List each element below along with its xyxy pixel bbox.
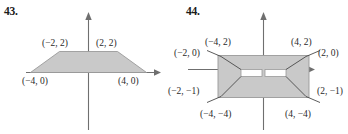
rectangle-region-44 <box>218 56 309 98</box>
slot-left-44 <box>241 70 262 77</box>
vertex-label-top-left-43: (−2, 2) <box>42 39 68 49</box>
vertex-label-bottom-right-43: (4, 0) <box>118 77 139 87</box>
vertex-label-bottom-left-44: (−4, −4) <box>200 110 231 120</box>
leader-stub-bottom-left-44 <box>207 97 221 103</box>
trapezoid-region-43 <box>31 52 147 73</box>
figure-43-graphic <box>0 0 174 134</box>
vertex-label-top-right-43: (2, 2) <box>96 39 117 49</box>
slot-right-44 <box>265 70 286 77</box>
leader-stub-bottom-right-44 <box>306 97 320 103</box>
figure-panel-43: 43. (−2, 2) (2, 2) (−4, 0) (4, 0) <box>0 0 174 134</box>
vertex-label-top-left-44: (−4, 2) <box>205 38 231 48</box>
slot-label-top-left-44: (−2, 0) <box>174 49 200 59</box>
slot-label-top-right-44: (2, 0) <box>318 49 339 59</box>
slot-label-bottom-right-44: (2, −1) <box>317 87 343 97</box>
vertex-label-bottom-left-43: (−4, 0) <box>22 77 48 87</box>
figure-panel-44: 44. (−4, 2) (4, 2) <box>174 0 348 134</box>
x-axis-arrowhead-43 <box>154 69 161 75</box>
leader-stub-top-left-44 <box>207 51 221 57</box>
slot-label-bottom-left-44: (−2, −1) <box>168 87 199 97</box>
vertex-label-top-right-44: (4, 2) <box>291 38 312 48</box>
vertex-label-bottom-right-44: (4, −4) <box>285 110 311 120</box>
exercise-figures-page: 43. (−2, 2) (2, 2) (−4, 0) (4, 0) 44. <box>0 0 348 134</box>
y-axis-arrowhead-44 <box>260 12 266 20</box>
y-axis-arrowhead-43 <box>85 12 91 20</box>
